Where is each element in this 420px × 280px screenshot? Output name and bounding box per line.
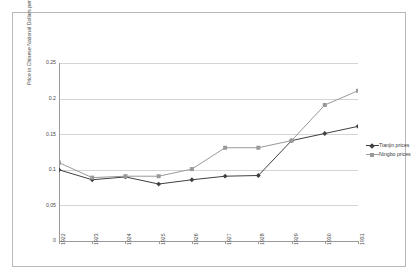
x-axis-tick-label: 1928: [260, 233, 265, 245]
x-axis-tick-label: 1924: [127, 233, 132, 245]
data-point-marker: [157, 174, 161, 178]
legend-label: Tianjin prices: [379, 143, 409, 148]
legend: Tianjin pricesNingbo prices: [366, 141, 418, 159]
series-line: [59, 91, 358, 178]
y-axis-tick-label: 0: [53, 238, 56, 243]
x-axis-tick-label: 1923: [94, 233, 99, 245]
y-axis-tick-label: 0.25: [46, 60, 56, 65]
data-point-marker: [223, 146, 227, 150]
data-point-marker: [356, 124, 358, 129]
legend-label: Ningbo prices: [379, 152, 411, 157]
data-point-marker: [322, 131, 327, 136]
x-axis-tick-label: 1930: [327, 233, 332, 245]
x-axis-tick-label: 1929: [294, 233, 299, 245]
legend-marker-icon: [366, 151, 379, 158]
x-axis-line: [59, 241, 358, 242]
data-point-marker: [256, 146, 260, 150]
y-axis-tick-label: 0.05: [46, 203, 56, 208]
legend-item: Ningbo prices: [366, 150, 418, 159]
data-point-marker: [290, 139, 294, 143]
data-point-marker: [323, 103, 327, 107]
y-axis-tick-label: 0.1: [49, 167, 56, 172]
chart-frame: 00.050.10.150.20.25 Price in Chinese Nat…: [12, 12, 406, 267]
y-axis-title: Price in Chinese National Dollars per pi…: [27, 0, 32, 85]
y-axis-tick-label: 0.2: [49, 96, 56, 101]
data-point-marker: [223, 174, 228, 179]
data-point-marker: [156, 182, 161, 187]
y-axis-tick-labels: 00.050.10.150.20.25: [13, 13, 56, 280]
data-point-marker: [189, 177, 194, 182]
legend-marker-icon: [366, 142, 379, 149]
x-axis-tick-label: 1931: [360, 233, 365, 245]
data-point-marker: [356, 89, 358, 93]
data-point-marker: [59, 167, 61, 172]
data-point-marker: [190, 167, 194, 171]
data-point-marker: [90, 176, 94, 180]
x-axis-tick-label: 1922: [61, 233, 66, 245]
y-axis-tick-label: 0.15: [46, 132, 56, 137]
x-axis-tick-label: 1926: [194, 233, 199, 245]
x-axis-tick-label: 1927: [227, 233, 232, 245]
x-axis-tick-label: 1925: [161, 233, 166, 245]
legend-item: Tianjin prices: [366, 141, 418, 150]
data-point-marker: [123, 174, 127, 178]
data-point-marker: [59, 161, 61, 165]
series-line: [59, 126, 358, 184]
series-plot: [59, 63, 358, 241]
